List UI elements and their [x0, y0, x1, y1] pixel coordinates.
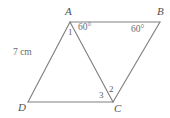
vertex-label-c: C — [114, 103, 121, 114]
vertex-label-a: A — [65, 6, 72, 17]
angle-label-b-60: 60° — [131, 25, 144, 35]
angle-label-1: 1 — [68, 28, 73, 37]
angle-label-2: 2 — [109, 85, 114, 94]
angle-label-a-60: 60° — [78, 23, 91, 33]
side-DA-line — [28, 22, 70, 102]
angle-label-3: 3 — [99, 91, 104, 100]
geometry-figure: A B C D 1 60° 60° 2 3 7 cm — [0, 0, 170, 118]
side-label-ad-length: 7 cm — [13, 48, 32, 58]
vertex-label-d: D — [18, 102, 26, 113]
diagonal-AC-line — [70, 22, 113, 102]
vertex-label-b: B — [157, 6, 164, 17]
